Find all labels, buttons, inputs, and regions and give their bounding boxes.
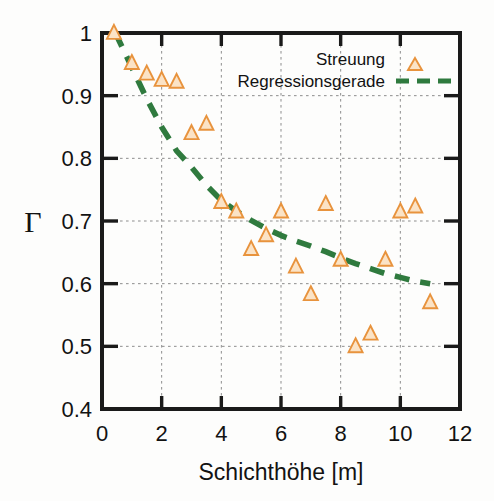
legend-label-regressionsgerade: Regressionsgerade [238, 72, 385, 91]
x-tick-label: 8 [335, 421, 347, 446]
legend-label-streuung: Streuung [316, 50, 385, 69]
scatter-marker-triangle [274, 204, 288, 218]
legend: Streuung Regressionsgerade [238, 50, 452, 91]
y-axis-title: Γ [24, 205, 41, 238]
scatter-marker-triangle [349, 338, 363, 352]
scatter-marker-triangle [319, 196, 333, 210]
scatter-marker-triangle [140, 66, 154, 80]
scatter-marker-triangle [170, 74, 184, 88]
x-tick-label: 0 [96, 421, 108, 446]
scatter-marker-triangle [259, 227, 273, 241]
x-tick-label: 4 [215, 421, 227, 446]
scatter-marker-triangle [185, 125, 199, 139]
y-tick-label: 0.5 [61, 334, 92, 359]
y-tick-label: 0.4 [61, 397, 92, 422]
y-tick-label: 0.8 [61, 146, 92, 171]
scatter-marker-triangle [244, 241, 258, 255]
x-tick-label: 6 [275, 421, 287, 446]
x-tick-label: 10 [388, 421, 412, 446]
x-tick-label: 2 [156, 421, 168, 446]
x-axis-title: Schichthöhe [m] [199, 459, 364, 485]
y-tick-label: 1 [80, 21, 92, 46]
scatter-marker-triangle [408, 199, 422, 213]
scatter-marker-triangle [364, 326, 378, 340]
scatter-marker-triangle [393, 204, 407, 218]
scatter-marker-triangle [155, 72, 169, 86]
y-tick-label: 0.6 [61, 272, 92, 297]
scatter-marker-triangle [423, 294, 437, 308]
chart-figure: 0246810120.40.50.60.70.80.91 Schichthöhe… [0, 0, 494, 501]
chart-canvas: 0246810120.40.50.60.70.80.91 Schichthöhe… [0, 0, 494, 501]
scatter-marker-triangle [304, 286, 318, 300]
scatter-marker-triangle [199, 116, 213, 130]
y-tick-label: 0.9 [61, 84, 92, 109]
scatter-marker-triangle [289, 259, 303, 273]
y-tick-label: 0.7 [61, 209, 92, 234]
scatter-marker-triangle [378, 252, 392, 266]
x-tick-label: 12 [448, 421, 472, 446]
legend-triangle-icon [408, 58, 422, 70]
